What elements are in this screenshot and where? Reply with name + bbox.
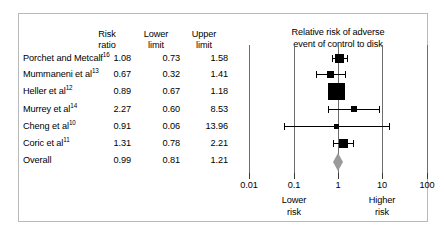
gridline-10 xyxy=(382,45,383,173)
reference-superscript: 12 xyxy=(66,84,73,91)
higher-risk-note: Higher risk xyxy=(347,195,417,218)
upper-value-3: 8.53 xyxy=(188,104,228,115)
axis-tick-10 xyxy=(382,173,383,179)
axis-tick-100 xyxy=(427,173,428,179)
lower-value-6: 0.81 xyxy=(140,155,180,166)
lower-value-4: 0.06 xyxy=(140,121,180,132)
study-marker-3 xyxy=(351,106,357,112)
upper-value-5: 2.21 xyxy=(188,138,228,149)
upper-value-4: 13.96 xyxy=(188,121,228,132)
ci-cap-3-1 xyxy=(379,106,380,113)
study-marker-1 xyxy=(327,71,334,78)
axis-tick-label-1: 1 xyxy=(313,180,363,191)
ci-cap-5-0 xyxy=(333,140,334,147)
ci-cap-0-0 xyxy=(332,55,333,62)
axis-tick-1 xyxy=(338,173,339,179)
upper-value-1: 1.41 xyxy=(188,69,228,80)
axis-tick-label-10: 10 xyxy=(357,180,407,191)
ci-cap-4-1 xyxy=(389,123,390,130)
gridline-0.01 xyxy=(249,45,250,173)
reference-superscript: 10 xyxy=(69,119,76,126)
forest-plot-figure: Risk ratioLower limitUpper limitRelative… xyxy=(18,13,428,222)
axis-tick-label-0.1: 0.1 xyxy=(269,180,319,191)
study-marker-5 xyxy=(339,139,348,148)
risk-ratio-value-4: 0.91 xyxy=(91,121,131,132)
study-label-6: Overall xyxy=(23,155,51,166)
risk-ratio-value-3: 2.27 xyxy=(91,104,131,115)
gridline-100 xyxy=(427,45,428,173)
axis-tick-0.1 xyxy=(294,173,295,179)
study-marker-2 xyxy=(328,83,345,100)
study-label-5: Coric et al11 xyxy=(23,138,70,149)
lower-risk-note: Lower risk xyxy=(259,195,329,218)
study-marker-4 xyxy=(334,124,339,129)
gridline-0.1 xyxy=(294,45,295,173)
column-header-1: Lower limit xyxy=(132,29,180,50)
risk-ratio-value-6: 0.99 xyxy=(91,155,131,166)
ci-cap-1-0 xyxy=(316,71,317,78)
reference-superscript: 14 xyxy=(70,102,77,109)
risk-ratio-value-0: 1.08 xyxy=(91,53,131,64)
upper-value-2: 1.18 xyxy=(188,86,228,97)
ci-cap-0-1 xyxy=(347,55,348,62)
upper-value-6: 1.21 xyxy=(188,155,228,166)
lower-value-3: 0.60 xyxy=(140,104,180,115)
risk-ratio-value-2: 0.89 xyxy=(91,86,131,97)
lower-value-5: 0.78 xyxy=(140,138,180,149)
study-label-2: Heller et al12 xyxy=(23,86,73,97)
ci-cap-5-1 xyxy=(353,140,354,147)
axis-tick-0.01 xyxy=(249,173,250,179)
axis-tick-label-0.01: 0.01 xyxy=(224,180,274,191)
ci-cap-1-1 xyxy=(345,71,346,78)
lower-value-0: 0.73 xyxy=(140,53,180,64)
risk-ratio-value-1: 0.67 xyxy=(91,69,131,80)
ci-cap-4-0 xyxy=(284,123,285,130)
column-header-0: Risk ratio xyxy=(83,29,131,50)
lower-value-1: 0.32 xyxy=(140,69,180,80)
study-label-3: Murrey et al14 xyxy=(23,104,77,115)
study-label-1: Mummaneni et al13 xyxy=(23,69,99,80)
overall-diamond xyxy=(333,153,343,171)
study-label-4: Cheng et al10 xyxy=(23,121,76,132)
upper-value-0: 1.58 xyxy=(188,53,228,64)
lower-value-2: 0.67 xyxy=(140,86,180,97)
study-marker-0 xyxy=(335,54,344,63)
risk-ratio-value-5: 1.31 xyxy=(91,138,131,149)
ci-cap-3-0 xyxy=(328,106,329,113)
column-header-2: Upper limit xyxy=(180,29,228,50)
reference-superscript: 11 xyxy=(63,136,69,143)
axis-tick-label-100: 100 xyxy=(402,180,446,191)
